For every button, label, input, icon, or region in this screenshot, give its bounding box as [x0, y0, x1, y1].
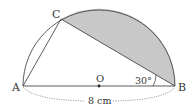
chord-ac — [23, 19, 61, 86]
label-b: B — [178, 81, 186, 94]
length-label: 8 cm — [88, 95, 111, 106]
label-o: O — [96, 73, 104, 84]
center-point-o — [98, 85, 101, 88]
semicircle-diagram: A B C O 30° 8 cm — [0, 0, 193, 111]
angle-label: 30° — [135, 75, 152, 86]
shaded-segment — [61, 9, 175, 86]
label-c: C — [52, 8, 60, 21]
angle-arc-b — [153, 75, 156, 86]
label-a: A — [11, 81, 21, 94]
